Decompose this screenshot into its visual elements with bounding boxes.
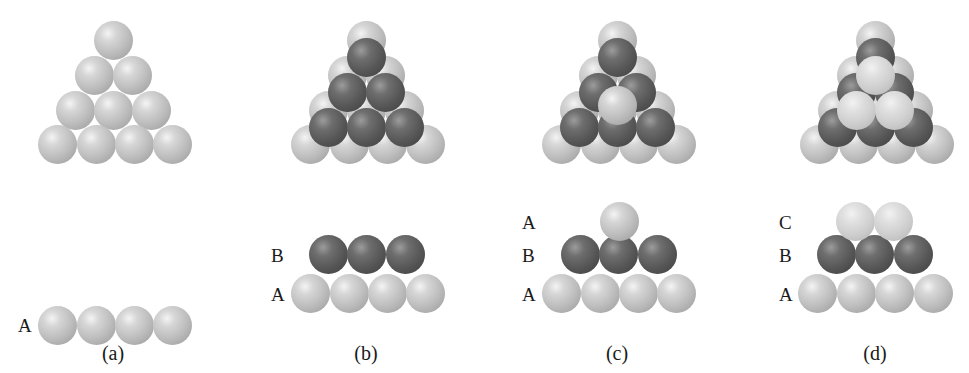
sphere-layer-a-side [115,306,154,345]
sphere-layer-b-top [328,73,367,112]
sphere-layer-b-side [561,235,600,274]
sphere-layer-a-top [77,125,116,164]
sphere-layer-a-top [153,125,192,164]
sphere-layer-c-side [874,202,913,241]
sphere-layer-b-top [366,73,405,112]
sphere-layer-b-side [347,235,386,274]
layer-label-a: A [522,285,536,304]
sphere-layer-a-side [619,274,658,313]
sphere-layer-a-top [115,125,154,164]
sphere-layer-b-top [598,38,637,77]
layer-label-c: C [779,213,792,232]
sphere-layer-a-side [657,274,696,313]
sphere-layer-a-side [837,274,876,313]
sphere-layer-a-side [581,274,620,313]
sphere-layer-a-side [798,274,837,313]
sphere-layer-a-top [38,125,77,164]
sphere-layer-b-side [638,235,677,274]
sphere-layer-a-side [330,274,369,313]
sphere-layer-a-side [77,306,116,345]
sphere-layer-a-side [914,274,953,313]
sphere-layer-a-side [368,274,407,313]
sphere-layer-a-top [113,56,152,95]
sphere-layer-b-side [386,235,425,274]
sphere-layer-a-side [291,274,330,313]
sphere-layer-c-top [856,56,895,95]
sphere-layer-b-side [894,235,933,274]
sphere-layer-a-top [132,91,171,130]
layer-label-b: B [522,246,535,265]
layer-label-b: B [779,246,792,265]
sphere-layer-c-side [836,202,875,241]
panel-caption-d: (d) [863,343,886,363]
layer-label-a: A [522,213,536,232]
sphere-layer-a-top [94,91,133,130]
layer-label-a: A [271,285,285,304]
layer-label-b: B [271,246,284,265]
close-packing-figure: A (a) BA (b) ABA (c) CBA (d) [0,0,969,373]
sphere-layer-b-top [560,108,599,147]
panel-caption-a: (a) [102,343,124,363]
sphere-layer-b-side [309,235,348,274]
sphere-layer-b-top [636,108,675,147]
sphere-layer-a-top [75,56,114,95]
sphere-layer-a-top [94,21,133,60]
sphere-layer-a-top [598,86,637,125]
layer-label-a: A [779,285,793,304]
sphere-layer-a-side [600,202,639,241]
sphere-layer-a-side [542,274,581,313]
sphere-layer-b-top [385,108,424,147]
sphere-layer-c-top [837,91,876,130]
panel-caption-c: (c) [606,343,628,363]
sphere-layer-a-side [875,274,914,313]
sphere-layer-b-top [347,38,386,77]
sphere-layer-a-side [406,274,445,313]
layer-label-a: A [18,316,32,335]
sphere-layer-b-top [309,108,348,147]
sphere-layer-a-side [153,306,192,345]
sphere-layer-b-top [347,108,386,147]
sphere-layer-a-top [56,91,95,130]
panel-caption-b: (b) [354,343,377,363]
sphere-layer-c-top [875,91,914,130]
sphere-layer-a-side [38,306,77,345]
